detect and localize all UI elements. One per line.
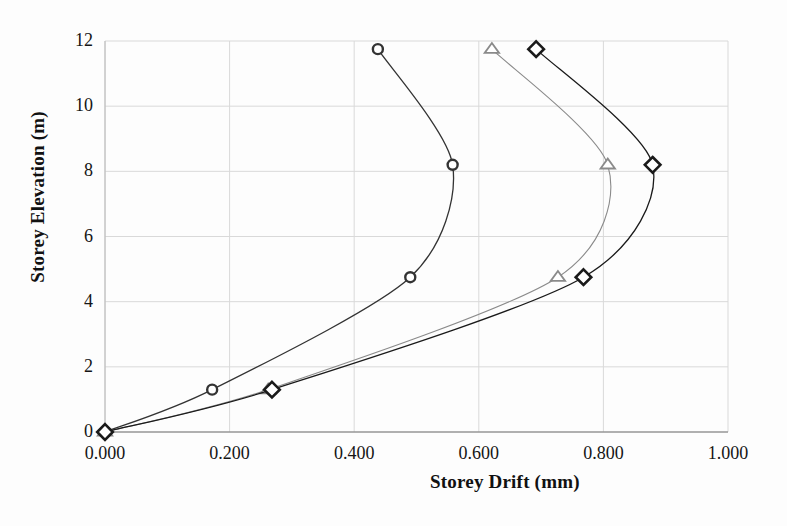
y-tick-label: 10	[53, 95, 93, 116]
x-tick-label: 0.000	[60, 443, 150, 464]
data-marker-circle	[373, 44, 383, 54]
y-tick-label: 8	[53, 160, 93, 181]
chart-figure: Storey Elevation (m) Storey Drift (mm) 0…	[0, 0, 787, 526]
x-tick-label: 1.000	[683, 443, 773, 464]
y-tick-label: 4	[53, 291, 93, 312]
y-tick-label: 6	[53, 226, 93, 247]
data-marker-circle	[405, 272, 415, 282]
y-axis-title: Storey Elevation (m)	[27, 67, 49, 327]
y-tick-label: 0	[53, 421, 93, 442]
data-marker-circle	[207, 385, 217, 395]
y-tick-label: 12	[53, 30, 93, 51]
data-marker-circle	[448, 160, 458, 170]
y-tick-label: 2	[53, 356, 93, 377]
x-tick-label: 0.800	[558, 443, 648, 464]
x-tick-label: 0.200	[185, 443, 275, 464]
x-tick-label: 0.400	[309, 443, 399, 464]
x-axis-title: Storey Drift (mm)	[430, 471, 730, 493]
x-tick-label: 0.600	[434, 443, 524, 464]
